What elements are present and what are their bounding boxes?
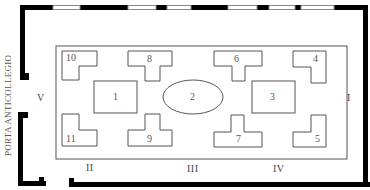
wall-label-bottom-iii: III [187, 164, 199, 174]
wall-label-bottom-ii: II [86, 163, 94, 173]
furniture-label-10: 10 [66, 53, 76, 63]
wall-label-right: I [347, 93, 351, 103]
furniture-label-4: 4 [313, 54, 318, 64]
furniture-label-2: 2 [190, 92, 195, 102]
furniture-label-7: 7 [236, 134, 241, 144]
furniture-label-6: 6 [234, 54, 239, 64]
furniture-label-1: 1 [113, 92, 118, 102]
wall-label-left: V [37, 93, 45, 103]
side-label-porta-anticollegio: PORTA ANTICOLLEGIO [4, 55, 13, 156]
furniture-label-8: 8 [147, 54, 152, 64]
wall-label-bottom-iv: IV [273, 164, 285, 174]
furniture-label-11: 11 [66, 134, 76, 144]
floor-plan [0, 0, 370, 190]
furniture-label-9: 9 [147, 134, 152, 144]
furniture-label-5: 5 [315, 134, 320, 144]
inner-frame [56, 46, 347, 159]
furniture-label-3: 3 [270, 92, 275, 102]
